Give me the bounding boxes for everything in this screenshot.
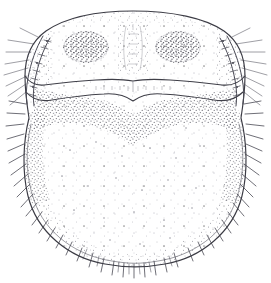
mite-idiosoma-illustration — [0, 0, 271, 283]
figure-root — [0, 0, 271, 283]
stipple-shading — [20, 8, 252, 274]
